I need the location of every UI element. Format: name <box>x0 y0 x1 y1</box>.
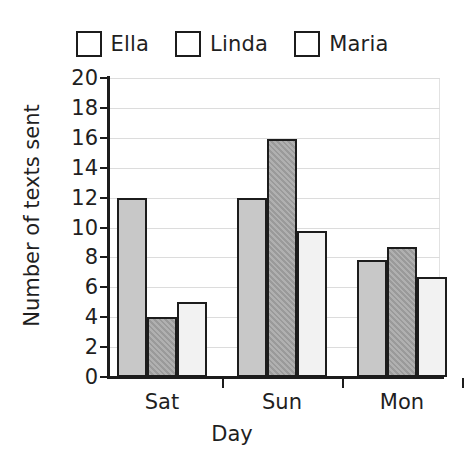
gridline <box>109 108 440 109</box>
y-axis-tick <box>100 77 109 79</box>
x-axis-title: Day <box>0 424 464 445</box>
x-axis-tick-label-sun: Sun <box>237 392 327 413</box>
x-axis-tick <box>222 378 224 388</box>
y-axis-tick-label: 16 <box>42 128 98 149</box>
y-axis-tick-label: 14 <box>42 158 98 179</box>
x-axis-tick-label-mon: Mon <box>357 392 447 413</box>
y-axis-tick-label: 12 <box>42 188 98 209</box>
bar-chart-figure: Ella Linda Maria Number of texts sent 02… <box>0 0 464 460</box>
y-axis-tick-label: 18 <box>42 98 98 119</box>
x-axis-tick <box>342 378 344 388</box>
plot-area <box>109 78 440 377</box>
legend-item-maria: Maria <box>294 31 388 57</box>
bar-maria-sun <box>297 231 327 378</box>
bar-linda-sun <box>267 139 297 377</box>
bar-linda-sat <box>147 317 177 377</box>
y-axis-tick <box>100 197 109 199</box>
y-axis-tick <box>100 137 109 139</box>
y-axis-tick-label: 8 <box>42 247 98 268</box>
y-axis-tick-label: 2 <box>42 337 98 358</box>
x-axis-line <box>107 376 444 379</box>
y-axis-tick-label: 6 <box>42 277 98 298</box>
y-axis-tick <box>100 107 109 109</box>
y-axis-tick <box>100 376 109 378</box>
bar-ella-mon <box>357 260 387 377</box>
y-axis-tick <box>100 316 109 318</box>
legend-label-maria: Maria <box>329 34 388 55</box>
legend-swatch-maria <box>294 31 320 57</box>
y-axis-tick-labels: 02468101214161820 <box>32 0 98 460</box>
legend-label-linda: Linda <box>210 34 268 55</box>
bar-maria-sat <box>177 302 207 377</box>
y-axis-tick-label: 20 <box>42 68 98 89</box>
y-axis-tick <box>100 227 109 229</box>
legend-item-linda: Linda <box>175 31 268 57</box>
y-axis-tick-label: 0 <box>42 367 98 388</box>
x-axis-tick-label-sat: Sat <box>117 392 207 413</box>
gridline <box>109 78 440 79</box>
bar-maria-mon <box>417 277 447 377</box>
legend-swatch-linda <box>175 31 201 57</box>
bar-ella-sat <box>117 198 147 377</box>
y-axis-tick <box>100 286 109 288</box>
y-axis-tick <box>100 256 109 258</box>
y-axis-tick <box>100 167 109 169</box>
bar-ella-sun <box>237 198 267 377</box>
legend-label-ella: Ella <box>111 34 150 55</box>
bar-linda-mon <box>387 247 417 377</box>
y-axis-tick-label: 4 <box>42 307 98 328</box>
y-axis-tick <box>100 346 109 348</box>
y-axis-tick-label: 10 <box>42 218 98 239</box>
